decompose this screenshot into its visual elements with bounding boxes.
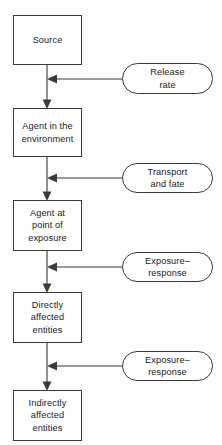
stage-box-indirectly-affected-entities[interactable] [14, 391, 82, 441]
flow-arrow-source-to-agent-in-environment [43, 65, 52, 109]
stage-box-source[interactable] [14, 16, 82, 65]
flowchart-svg [0, 0, 222, 445]
modifier-shapes [123, 64, 213, 381]
modifier-box-exposure-response-direct[interactable] [123, 253, 213, 282]
modifier-box-release-rate[interactable] [123, 64, 213, 94]
modifier-box-transport-and-fate[interactable] [123, 164, 213, 193]
flowchart-canvas: Source Agent in the environment Agent at… [0, 0, 222, 445]
stage-box-agent-at-point-of-exposure[interactable] [14, 201, 82, 251]
stage-box-agent-in-environment[interactable] [14, 109, 82, 157]
flow-arrow-point-of-exposure-to-directly-affected [43, 251, 52, 293]
modifier-arrow-exposure-response-indirect [47, 361, 122, 370]
modifier-arrow-exposure-response-direct [47, 262, 122, 271]
modifier-arrow-release-rate [47, 74, 122, 83]
stage-box-directly-affected-entities[interactable] [14, 293, 82, 343]
modifier-arrow-transport-and-fate [47, 173, 122, 182]
modifier-box-exposure-response-indirect[interactable] [123, 352, 213, 381]
